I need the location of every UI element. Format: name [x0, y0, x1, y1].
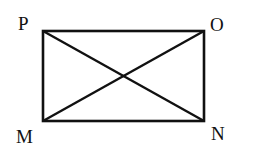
rectangle-diagram: P O M N — [0, 0, 253, 150]
vertex-label-p: P — [18, 13, 29, 34]
vertex-label-n: N — [211, 123, 225, 144]
vertex-label-o: O — [210, 14, 224, 35]
vertex-label-m: M — [16, 126, 33, 147]
